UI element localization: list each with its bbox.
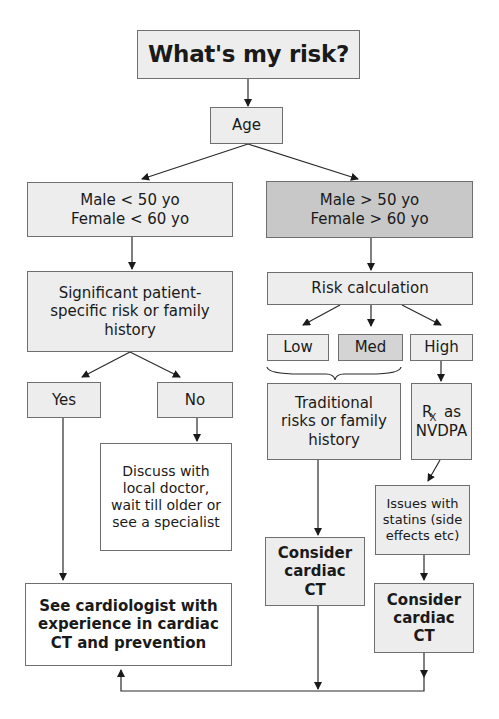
title-text: What's my risk? [148,40,349,68]
node-risk-high: High [410,334,473,361]
node-risk-low: Low [267,334,329,361]
node-significant-risk-label: Significant patient- specific risk or fa… [50,284,209,339]
node-significant-risk: Significant patient- specific risk or fa… [27,271,233,352]
node-issues-statins: Issues with statins (side effects etc) [375,485,470,555]
node-age-label: Age [232,116,261,134]
node-risk-med-label: Med [355,338,387,356]
node-young-age-label: Male < 50 yo Female < 60 yo [71,191,189,228]
rx-subscript: X [429,412,436,423]
node-risk-high-label: High [424,338,458,356]
node-risk-calculation: Risk calculation [267,272,473,305]
node-traditional-risks-label: Traditional risks or family history [281,394,387,449]
node-consider-ct-left-label: Consider cardiac CT [278,544,352,599]
rx-line-2: NVDPA [416,422,467,440]
node-discuss-label: Discuss with local doctor, wait till old… [111,463,221,531]
node-risk-low-label: Low [283,338,313,356]
node-traditional-risks: Traditional risks or family history [267,383,401,460]
node-rx-nvdpa: RX as NVDPA [411,383,472,460]
node-see-cardiologist-label: See cardiologist with experience in card… [38,597,219,652]
node-no-label: No [185,391,205,409]
node-risk-calculation-label: Risk calculation [311,279,428,297]
node-yes: Yes [27,382,101,418]
node-consider-ct-left: Consider cardiac CT [265,537,365,606]
node-discuss-local-doctor: Discuss with local doctor, wait till old… [100,443,232,551]
node-see-cardiologist: See cardiologist with experience in card… [25,583,232,666]
node-consider-ct-right-label: Consider cardiac CT [387,591,461,646]
node-older-age: Male > 50 yo Female > 60 yo [266,181,473,238]
rx-as: as [439,403,461,421]
node-no: No [157,382,233,418]
node-issues-statins-label: Issues with statins (side effects etc) [383,496,462,544]
node-young-age: Male < 50 yo Female < 60 yo [27,182,233,237]
node-yes-label: Yes [52,391,76,409]
node-older-age-label: Male > 50 yo Female > 60 yo [310,191,428,228]
node-consider-ct-right: Consider cardiac CT [374,583,474,653]
node-risk-med: Med [338,334,403,361]
rx-line-1: RX as [422,403,461,421]
title-box: What's my risk? [137,30,360,79]
node-age: Age [210,107,283,144]
